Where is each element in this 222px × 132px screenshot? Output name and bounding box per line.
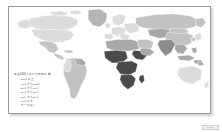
legend-item-label: 75人から100人: [21, 83, 40, 87]
legend-rows: 100人以上 75人から100人 51人から75人 26人から50人 11人から: [13, 78, 67, 108]
legend-swatch-icon: [13, 96, 19, 100]
legend-swatch-icon: [13, 91, 19, 95]
legend-swatch-icon: [13, 87, 19, 91]
legend-item-label: データなし: [21, 104, 36, 108]
map-panel: 出生1000人あたりの死亡数 100人以上 75人から100人 51人から75人…: [8, 6, 211, 114]
legend-title: 出生1000人あたりの死亡数: [13, 73, 67, 77]
credit-text: source: [207, 126, 215, 129]
region-europe: [104, 14, 140, 40]
legend-swatch-icon: [13, 83, 19, 87]
legend-item-label: 11人から25人: [21, 96, 39, 100]
legend-item-label: 100人以上: [21, 78, 34, 82]
region-north-america: [17, 9, 107, 60]
legend-swatch-icon: [13, 100, 19, 104]
region-oceania: [177, 62, 209, 88]
legend-swatch-icon: [13, 78, 19, 82]
credit-tag: source: [202, 125, 219, 130]
region-south-america: [63, 58, 87, 99]
screenshot-root: 出生1000人あたりの死亡数 100人以上 75人から100人 51人から75人…: [0, 0, 222, 132]
legend-item-label: 26人から50人: [21, 91, 39, 95]
legend-swatch-icon: [13, 104, 19, 108]
map-legend: 出生1000人あたりの死亡数 100人以上 75人から100人 51人から75人…: [13, 73, 67, 109]
legend-item[interactable]: データなし: [13, 104, 67, 108]
